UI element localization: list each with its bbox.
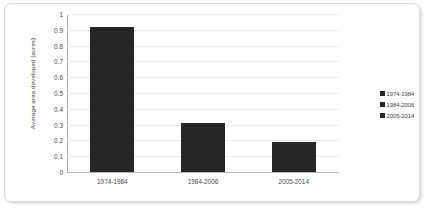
y-axis-tick-label: 0.4	[23, 105, 63, 112]
chart-legend: 1974-19841984-20062005-2014	[380, 88, 429, 121]
legend-item[interactable]: 2005-2014	[380, 110, 429, 121]
y-axis-tick-label: 0.8	[23, 42, 63, 49]
legend-swatch-icon	[380, 102, 385, 107]
legend-label: 2005-2014	[387, 113, 415, 119]
bar	[272, 142, 316, 172]
bar	[90, 27, 134, 172]
y-axis-tick-label: 0.9	[23, 26, 63, 33]
y-axis-tick-labels: 10.90.80.70.60.50.40.30.20.10	[19, 14, 63, 172]
y-axis-tick-label: 0.1	[23, 153, 63, 160]
x-axis-tick-label: 1974-1984	[97, 178, 128, 185]
y-axis-tick-label: 0.3	[23, 121, 63, 128]
y-axis-tick-label: 0	[23, 169, 63, 176]
legend-swatch-icon	[380, 113, 385, 118]
y-axis-tick-label: 0.5	[23, 90, 63, 97]
legend-swatch-icon	[380, 91, 385, 96]
legend-item[interactable]: 1974-1984	[380, 88, 429, 99]
y-axis-tick-label: 0.6	[23, 74, 63, 81]
x-axis-tick-label: 2005-2014	[278, 178, 309, 185]
legend-label: 1974-1984	[387, 91, 415, 97]
y-axis-tick-label: 0.2	[23, 137, 63, 144]
plot-inner	[67, 14, 339, 172]
y-axis-tick-label: 0.7	[23, 58, 63, 65]
bar	[181, 123, 225, 172]
plot-area	[67, 14, 339, 172]
legend-item[interactable]: 1984-2006	[380, 99, 429, 110]
x-axis-tick-label: 1984-2006	[188, 178, 219, 185]
chart-container: Average area developed (acres) 10.90.80.…	[4, 3, 420, 202]
gridline	[67, 14, 339, 15]
legend-label: 1984-2006	[387, 102, 415, 108]
y-axis-tick-label: 1	[23, 11, 63, 18]
x-axis-tick-labels: 1974-19841984-20062005-2014	[67, 173, 339, 189]
